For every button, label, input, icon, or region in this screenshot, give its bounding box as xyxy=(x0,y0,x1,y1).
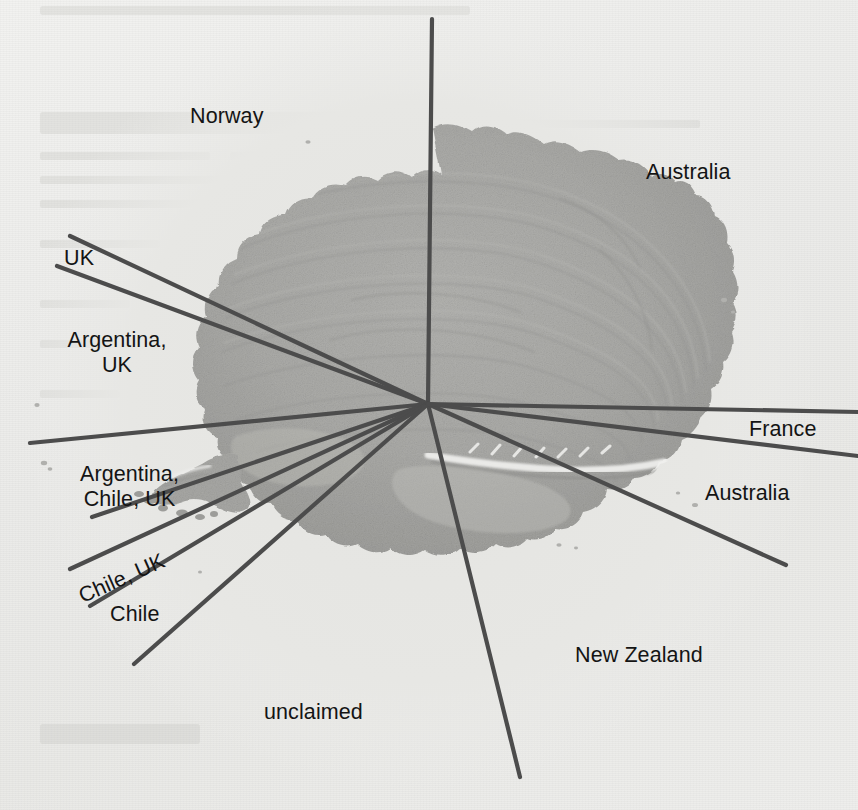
map-figure-page: Norway Australia UK Argentina, UK France… xyxy=(0,0,858,810)
sector-label-france: France xyxy=(749,417,817,442)
sector-label-unclaimed: unclaimed xyxy=(264,700,363,725)
sector-label-australia-top: Australia xyxy=(646,160,731,185)
sector-label-new-zealand: New Zealand xyxy=(575,643,703,668)
sector-label-australia-right: Australia xyxy=(705,481,790,506)
sector-label-argentina-chile-uk: Argentina, Chile, UK xyxy=(57,462,202,511)
sector-label-chile: Chile xyxy=(110,602,160,627)
sector-label-norway: Norway xyxy=(190,104,263,129)
sector-label-argentina-uk: Argentina, UK xyxy=(52,328,182,377)
sector-label-uk: UK xyxy=(64,246,94,271)
antarctica-claims-map xyxy=(0,0,858,810)
